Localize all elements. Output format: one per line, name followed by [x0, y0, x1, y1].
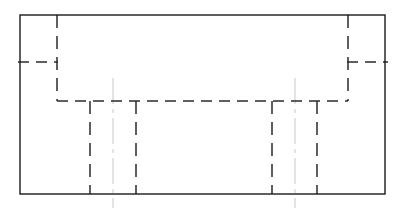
hidden-edges-group: [18, 15, 388, 194]
technical-drawing-canvas: [0, 0, 404, 215]
outer-profile-rectangle: [20, 15, 385, 194]
drawing-svg-root: [0, 0, 404, 215]
center-lines-group: [113, 78, 295, 208]
visible-edges-group: [20, 15, 385, 194]
